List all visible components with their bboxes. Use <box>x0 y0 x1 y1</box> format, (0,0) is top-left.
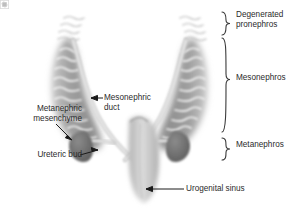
leader-urogenital-sinus <box>146 186 184 191</box>
label-degenerated-pronephros: Degenerated pronephros <box>236 10 283 29</box>
urogenital-sinus <box>129 116 160 204</box>
metanephric-mesenchyme-right <box>166 131 190 162</box>
brace-metanephros <box>222 138 230 160</box>
label-metanephros: Metanephros <box>236 140 284 150</box>
anatomy-figure: Degenerated pronephros Mesonephros Metan… <box>0 0 298 218</box>
label-mesonephros: Mesonephros <box>236 73 286 83</box>
degenerated-pronephros-right <box>180 17 206 41</box>
label-metanephric-mesenchyme: Metanephric mesenchyme <box>8 104 82 123</box>
label-ureteric-bud: Ureteric bud <box>14 150 82 160</box>
degenerated-pronephros-left <box>58 17 84 41</box>
label-urogenital-sinus: Urogenital sinus <box>186 184 245 194</box>
brace-mesonephros <box>222 38 230 132</box>
label-mesonephric-duct: Mesonephric duct <box>104 93 168 112</box>
image-placeholder-icon <box>0 0 9 9</box>
brace-degenerated-pronephros <box>222 12 230 35</box>
